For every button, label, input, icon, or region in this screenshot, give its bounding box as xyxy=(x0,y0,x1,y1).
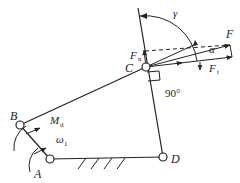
label-gamma: γ xyxy=(173,7,178,19)
diagram-svg: A B C D F F n F t α γ 90° M d ω 1 xyxy=(0,0,240,183)
ground-link-ad xyxy=(50,157,163,159)
label-moment-sub: d xyxy=(60,121,64,129)
joint-c xyxy=(142,63,150,71)
label-omega: ω xyxy=(56,133,64,145)
gamma-arc xyxy=(140,16,197,61)
label-b: B xyxy=(10,109,18,123)
label-force-fn-sub: n xyxy=(138,55,142,63)
joint-d xyxy=(159,153,167,161)
label-a: A xyxy=(33,167,42,181)
label-force-f: F xyxy=(225,27,234,41)
ground-hatch xyxy=(78,158,125,169)
force-parallelogram-edge xyxy=(230,45,232,57)
label-c: C xyxy=(125,61,134,75)
rocker-cd xyxy=(138,8,163,157)
label-omega-sub: 1 xyxy=(64,140,68,148)
label-force-fn: F xyxy=(129,49,137,61)
label-moment: M xyxy=(49,114,60,126)
linkage-diagram: A B C D F F n F t α γ 90° M d ω 1 xyxy=(0,0,240,183)
joint-a xyxy=(46,155,54,163)
force-ft-arrow xyxy=(146,57,232,67)
coupler-bc xyxy=(20,67,146,125)
label-force-ft: F xyxy=(208,62,216,74)
label-d: D xyxy=(170,152,180,166)
label-alpha: α xyxy=(209,43,215,55)
label-force-ft-sub: t xyxy=(217,68,219,76)
label-right-angle: 90° xyxy=(165,87,180,99)
